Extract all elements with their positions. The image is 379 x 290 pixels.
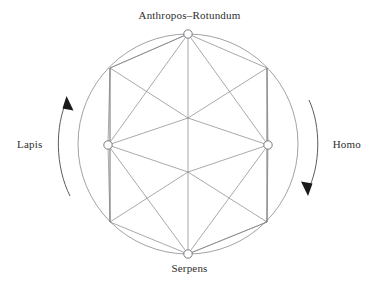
figure-root: Anthropos–Rotundum Lapis Homo Serpens	[0, 0, 379, 290]
edge-top-to-upper-right	[188, 34, 267, 68]
edge-lapis-to-upper-center	[108, 118, 188, 145]
edge-homo-to-upper-center	[188, 118, 268, 145]
left-rotation-arc	[58, 100, 70, 196]
label-homo: Homo	[333, 138, 361, 150]
label-lapis: Lapis	[17, 138, 42, 150]
edge-lower-right-to-lower-center	[188, 172, 267, 222]
right-arrowhead-icon	[301, 182, 313, 197]
node-anthropos-rotundum[interactable]	[184, 30, 192, 38]
diagram-canvas	[0, 0, 379, 290]
node-serpens[interactable]	[184, 250, 192, 258]
right-rotation-arrow	[301, 100, 318, 196]
left-rotation-arrow	[58, 96, 73, 196]
edge-top-chord-left	[110, 34, 188, 68]
edge-lower-left-to-lower-center	[110, 172, 188, 222]
edge-homo-to-lower-center	[188, 145, 268, 172]
edge-lapis-to-lower-center	[108, 145, 188, 172]
edge-group	[108, 34, 268, 254]
edge-upper-right-to-upper-center	[188, 68, 267, 118]
right-rotation-arc	[307, 100, 318, 192]
edge-top-to-homo	[188, 34, 268, 145]
label-serpens: Serpens	[0, 262, 379, 274]
left-arrowhead-icon	[63, 96, 74, 111]
edge-upper-left-to-upper-center	[110, 68, 188, 118]
label-anthropos-rotundum: Anthropos–Rotundum	[0, 9, 379, 21]
node-lapis[interactable]	[104, 141, 112, 149]
node-homo[interactable]	[264, 141, 272, 149]
edge-top-to-lapis	[108, 34, 188, 145]
